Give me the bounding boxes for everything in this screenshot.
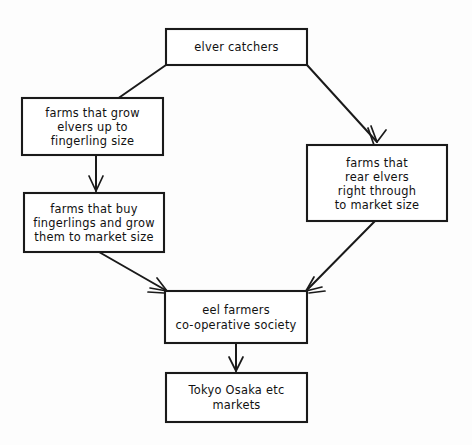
node-label-eel-farmers-cooperative-line2: co-operative society xyxy=(175,318,296,332)
node-label-farms-rear-elvers-line1: farms that xyxy=(346,156,408,170)
node-label-farms-buy-fingerlings-line2: fingerlings and grow xyxy=(33,216,155,230)
node-label-farms-rear-elvers-line3: right through xyxy=(338,184,416,198)
node-label-farms-buy-fingerlings-line3: them to market size xyxy=(34,230,153,244)
edge-catchers-to-rear xyxy=(307,65,386,145)
node-label-farms-rear-elvers-line2: rear elvers xyxy=(345,170,409,184)
node-label-markets-line2: markets xyxy=(212,398,260,412)
node-markets[interactable]: Tokyo Osaka etc markets xyxy=(166,373,307,422)
flowchart-diagram: elver catchers farms that grow elvers up… xyxy=(0,0,472,445)
edge-buy-to-cooperative xyxy=(99,252,167,293)
node-label-markets-line1: Tokyo Osaka etc xyxy=(188,383,285,397)
node-label-eel-farmers-cooperative-line1: eel farmers xyxy=(202,303,270,317)
node-label-farms-grow-elvers-line2: elvers up to xyxy=(57,120,128,134)
flowchart-canvas: elver catchers farms that grow elvers up… xyxy=(0,0,472,445)
node-farms-rear-elvers[interactable]: farms that rear elvers right through to … xyxy=(307,145,447,221)
node-label-farms-buy-fingerlings-line1: farms that buy xyxy=(50,202,138,216)
node-farms-buy-fingerlings[interactable]: farms that buy fingerlings and grow them… xyxy=(24,193,164,252)
node-label-farms-grow-elvers-line3: fingerling size xyxy=(51,134,135,148)
edge-cooperative-to-markets xyxy=(229,343,243,371)
edge-grow-to-buy xyxy=(89,155,103,191)
node-eel-farmers-cooperative[interactable]: eel farmers co-operative society xyxy=(165,291,307,343)
node-farms-grow-elvers[interactable]: farms that grow elvers up to fingerling … xyxy=(22,98,163,155)
edge-rear-to-cooperative xyxy=(306,221,375,293)
node-label-farms-grow-elvers-line1: farms that grow xyxy=(45,106,140,120)
node-label-farms-rear-elvers-line4: to market size xyxy=(335,198,420,212)
node-elver-catchers[interactable]: elver catchers xyxy=(166,29,307,65)
node-label-elver-catchers: elver catchers xyxy=(194,40,279,54)
